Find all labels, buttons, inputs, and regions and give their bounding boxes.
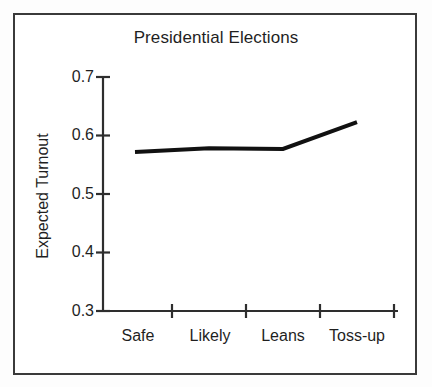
series-line-expected-turnout [135,122,357,152]
figure-canvas: Presidential Elections Expected Turnout … [0,0,432,387]
plot-area [0,0,432,387]
